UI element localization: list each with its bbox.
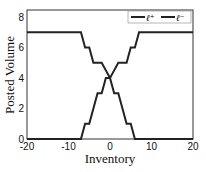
plot-frame xyxy=(27,10,193,139)
legend-item-1: ℓ⁺ xyxy=(146,13,155,23)
y-axis-label: Posted Volume xyxy=(2,36,17,114)
x-tick-label: -20 xyxy=(20,141,35,152)
x-tick-label: -10 xyxy=(61,141,76,152)
x-axis-label: Inventory xyxy=(85,151,136,166)
legend: ℓ⁺ ℓ⁻ xyxy=(128,11,191,23)
y-tick-label: 2 xyxy=(18,103,24,114)
y-tick-label: 8 xyxy=(18,12,24,23)
x-tick-label: 20 xyxy=(187,141,199,152)
legend-item-2: ℓ⁻ xyxy=(176,13,185,23)
y-tick-label: 6 xyxy=(18,42,24,53)
y-tick-label: 4 xyxy=(18,73,24,84)
x-tick-label: 10 xyxy=(146,141,158,152)
chart: 02468 -20-1001020 Inventory Posted Volum… xyxy=(0,0,206,172)
